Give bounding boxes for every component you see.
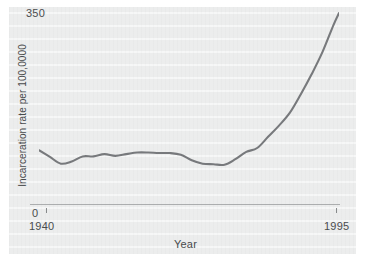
chart-screenshot: 350 0 Incarceration rate per 100,0000 19… — [0, 0, 371, 261]
x-axis-baseline — [30, 204, 340, 205]
y-axis-min-label: 0 — [32, 207, 38, 219]
y-axis-title: Incarceration rate per 100,0000 — [17, 41, 28, 191]
plot-area — [39, 8, 339, 204]
series-line-incarceration-rate — [39, 13, 339, 165]
x-axis-tick-right — [336, 208, 337, 213]
line-chart-svg — [39, 8, 339, 204]
x-axis-right-label: 1995 — [324, 220, 349, 232]
x-axis-title: Year — [0, 238, 371, 250]
x-axis-tick-left — [46, 208, 47, 213]
x-axis-left-label: 1940 — [29, 220, 54, 232]
